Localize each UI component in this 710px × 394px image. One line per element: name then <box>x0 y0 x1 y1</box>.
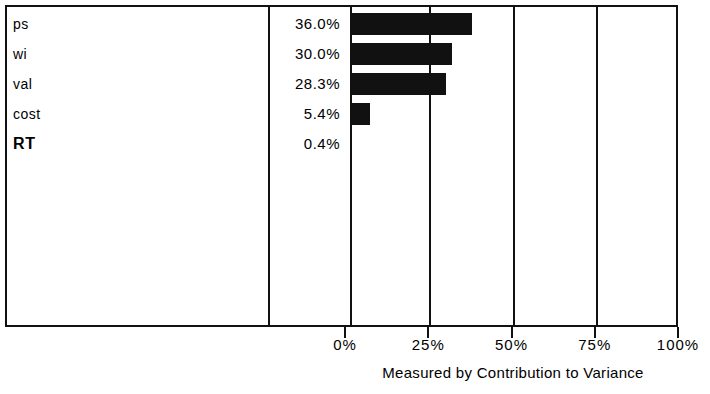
table-row: cost5.4% <box>7 99 676 129</box>
row-label: ps <box>13 9 29 39</box>
row-value-label: 30.0% <box>268 39 348 69</box>
axis-tick-label: 100% <box>638 336 710 353</box>
table-row: wi30.0% <box>7 39 676 69</box>
row-value-label: 36.0% <box>268 9 348 39</box>
bar <box>352 73 446 95</box>
row-value-label: 5.4% <box>268 99 348 129</box>
axis-tick-label: 75% <box>555 336 635 353</box>
axis-tick-label: 0% <box>305 336 385 353</box>
row-label: cost <box>13 99 41 129</box>
axis-tick-label: 25% <box>388 336 468 353</box>
row-value-label: 0.4% <box>268 129 348 159</box>
x-axis-title: Measured by Contribution to Variance <box>345 364 681 381</box>
table-row: RT0.4% <box>7 129 676 159</box>
row-label: wi <box>13 39 27 69</box>
table-row: val28.3% <box>7 69 676 99</box>
axis-tick-label: 50% <box>472 336 552 353</box>
row-value-label: 28.3% <box>268 69 348 99</box>
bar <box>352 103 370 125</box>
row-label: RT <box>13 129 36 159</box>
table-row: ps36.0% <box>7 9 676 39</box>
bar <box>352 13 472 35</box>
x-axis-tick-labels: 0%25%50%75%100% <box>0 336 710 360</box>
row-label: val <box>13 69 32 99</box>
bar <box>352 43 452 65</box>
bar-rows: ps36.0%wi30.0%val28.3%cost5.4%RT0.4% <box>7 7 676 325</box>
chart-plot-area: ps36.0%wi30.0%val28.3%cost5.4%RT0.4% <box>5 5 678 327</box>
